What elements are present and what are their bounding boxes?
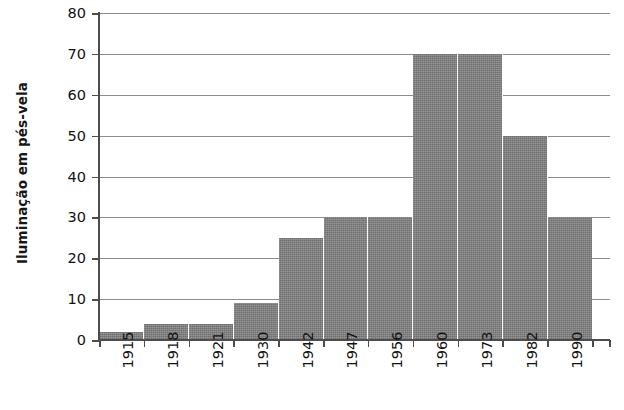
x-axis-tick (189, 340, 191, 347)
x-axis-tick-label: 1942 (301, 332, 316, 369)
bar (548, 217, 592, 340)
x-axis-tick-label-cell: 1982 (502, 348, 547, 410)
x-axis-tick-label-cell: 1930 (233, 348, 278, 410)
bar-chart: Iluminação em pés-vela 01020304050607080… (0, 0, 624, 410)
y-axis-tick (92, 54, 99, 56)
bar-series (99, 13, 592, 340)
bar (324, 217, 369, 340)
y-axis-tick-labels: 01020304050607080 (54, 0, 86, 410)
x-axis-tick-label-cell: 1956 (368, 348, 413, 410)
bar (458, 54, 503, 340)
x-axis-tick-label-cell: 1915 (99, 348, 144, 410)
bar (503, 136, 548, 340)
x-axis-tick-label-cell: 1921 (189, 348, 234, 410)
y-axis-tick-label: 0 (58, 333, 86, 348)
y-axis-tick-label: 30 (58, 210, 86, 225)
y-axis-tick (92, 340, 99, 342)
y-axis-tick (92, 299, 99, 301)
x-axis-tick (99, 340, 101, 347)
y-axis-tick-label: 70 (58, 47, 86, 62)
x-axis-tick-label-cell: 1947 (323, 348, 368, 410)
x-axis-tick-label: 1973 (480, 332, 495, 369)
x-axis-tick-label-cell: 1990 (547, 348, 592, 410)
y-axis-tick (92, 258, 99, 260)
y-axis-tick-label: 20 (58, 251, 86, 266)
y-axis-tick-label: 40 (58, 170, 86, 185)
x-axis-tick (502, 340, 504, 347)
y-axis-title-text: Iluminação em pés-vela (14, 81, 30, 263)
x-axis-tick-label: 1990 (570, 332, 585, 369)
x-axis-tick-label-cell: 1942 (278, 348, 323, 410)
x-axis-tick (144, 340, 146, 347)
y-axis-tick (92, 217, 99, 219)
y-axis-tick-label: 10 (58, 292, 86, 307)
x-axis-tick-label-cell: 1960 (413, 348, 458, 410)
y-axis-tick-label: 50 (58, 129, 86, 144)
x-axis-tick-label: 1930 (256, 332, 271, 369)
bar (413, 54, 458, 340)
x-axis-tick-label-cell: 1918 (144, 348, 189, 410)
y-axis-tick (92, 177, 99, 179)
x-axis-tick (592, 340, 594, 347)
bar (368, 217, 413, 340)
x-axis-tick (547, 340, 549, 347)
x-axis-end-tick (609, 340, 611, 347)
x-axis-tick-label: 1960 (435, 332, 450, 369)
x-axis-tick-label-cell: 1973 (458, 348, 503, 410)
y-axis-tick (92, 136, 99, 138)
x-axis-tick-label: 1915 (121, 332, 136, 369)
plot-area (99, 13, 610, 340)
y-axis-tick-label: 80 (58, 6, 86, 21)
y-axis-tick-label: 60 (58, 88, 86, 103)
y-axis-title: Iluminação em pés-vela (0, 0, 44, 345)
x-axis-tick-labels: 1915191819211930194219471956196019731982… (99, 348, 592, 410)
y-axis-tick (92, 95, 99, 97)
x-axis-tick-label: 1947 (345, 332, 360, 369)
x-axis-tick (368, 340, 370, 347)
x-axis-tick (323, 340, 325, 347)
x-axis-tick (278, 340, 280, 347)
x-axis-tick-label: 1918 (166, 332, 181, 369)
y-axis-tick (92, 13, 99, 15)
x-axis-tick-label: 1982 (525, 332, 540, 369)
x-axis-tick (458, 340, 460, 347)
bar (279, 238, 324, 340)
x-axis-tick-label: 1921 (211, 332, 226, 369)
x-axis-tick-label: 1956 (390, 332, 405, 369)
x-axis-tick (233, 340, 235, 347)
x-axis-tick (413, 340, 415, 347)
